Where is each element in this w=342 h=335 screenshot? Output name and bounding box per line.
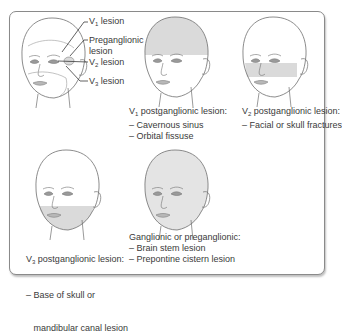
- caption-item: – Orbital fissuse: [129, 131, 227, 142]
- caption-title: V3 postganglionic lesion:: [26, 254, 128, 268]
- v2-lesion-label: V2 lesion: [89, 57, 124, 71]
- caption-title: Ganglionic or preganglionic:: [129, 232, 241, 243]
- ganglionic-caption: Ganglionic or preganglionic: – Brain ste…: [129, 232, 241, 265]
- preganglionic-lesion-label: Preganglioniclesion: [89, 35, 144, 57]
- caption-title: V2 postganglionic lesion:: [242, 106, 342, 120]
- caption-item: – Prepontine cistern lesion: [129, 254, 241, 265]
- caption-item: mandibular canal lesion: [26, 323, 128, 334]
- v3-lesion-label: V3 lesion: [89, 76, 124, 90]
- caption-item: – Brain stem lesion: [129, 243, 241, 254]
- v1-postganglionic-caption: V1 postganglionic lesion: – Cavernous si…: [129, 106, 227, 142]
- caption-title: V1 postganglionic lesion:: [129, 106, 227, 120]
- caption-item: – Facial or skull fractures: [242, 120, 342, 131]
- caption-item: – Cavernous sinus: [129, 120, 227, 131]
- caption-item: – Base of skull or: [26, 290, 128, 301]
- v1-lesion-label: V1 lesion: [89, 16, 124, 30]
- v3-postganglionic-caption: V3 postganglionic lesion: – Base of skul…: [26, 232, 128, 335]
- v2-postganglionic-caption: V2 postganglionic lesion: – Facial or sk…: [242, 106, 342, 131]
